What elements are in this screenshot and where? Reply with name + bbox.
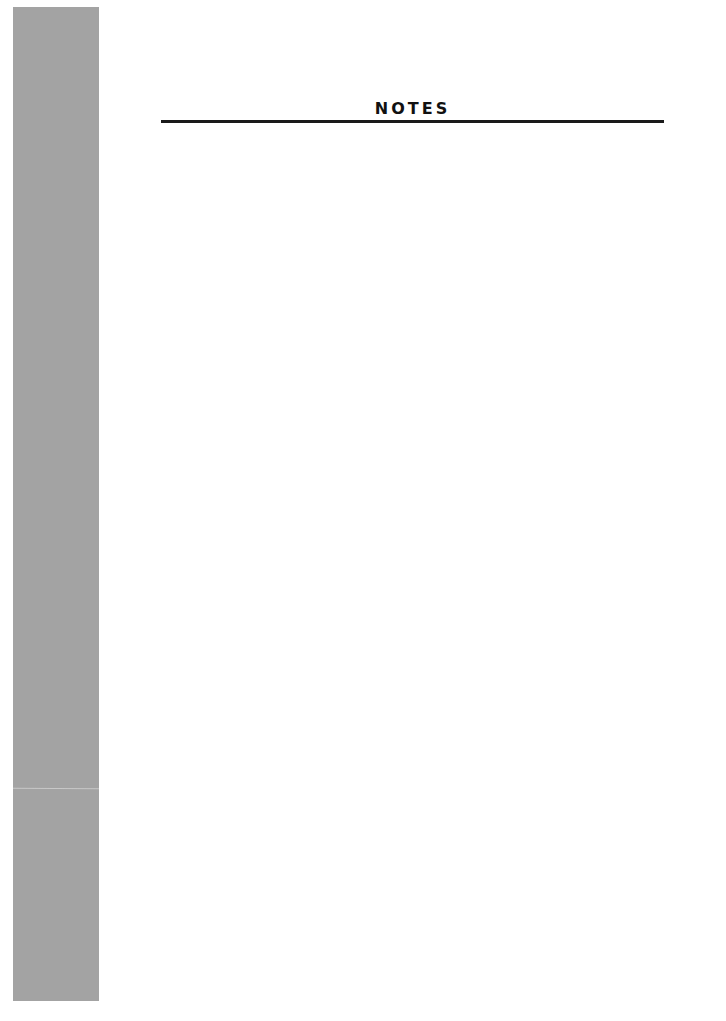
side-margin-bar [13,7,99,1001]
side-bar-crease [13,788,99,789]
title-underline-rule [161,120,664,123]
notes-header: NOTES [161,96,664,126]
page-title: NOTES [161,100,664,118]
notes-writing-area [161,130,664,990]
